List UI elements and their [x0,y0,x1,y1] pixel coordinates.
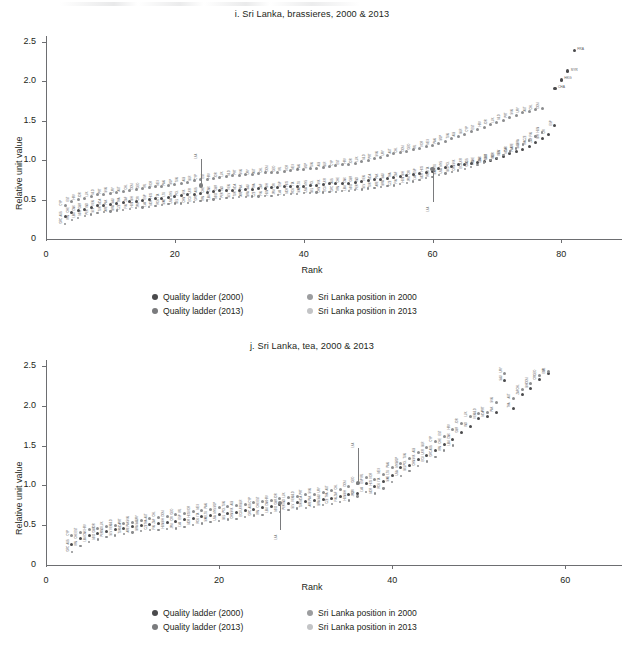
data-point [382,480,385,483]
data-point [512,397,515,400]
data-point [330,489,333,492]
legend-row-2: Quality ladder (2013) Sri Lanka position… [0,620,624,634]
data-point [469,425,472,428]
data-point-label: HUN [345,495,348,501]
data-point [183,518,186,521]
data-point-label: ARE [377,181,380,186]
data-point [283,194,285,196]
data-point [457,135,460,138]
data-point-label: EST [440,431,443,436]
legend-j: Quality ladder (2000) Sri Lanka position… [0,606,624,634]
legend-label: Sri Lanka position in 2000 [318,290,417,304]
data-point-label: LTU [165,192,168,197]
data-point [391,481,393,483]
data-point-label: LVA [145,202,148,207]
data-point [331,503,333,505]
data-point [166,515,169,518]
data-point-label: BLR [423,442,426,447]
y-tick-label: 1.5 [6,440,36,450]
data-point [235,511,238,514]
data-point [341,182,344,185]
data-point [538,378,541,381]
data-point-label: DOM [132,183,135,189]
data-point [412,180,414,182]
data-point [339,495,342,498]
data-point [444,140,447,143]
data-point [365,491,367,493]
data-point-label: NOR [422,172,425,178]
x-tick [46,233,47,239]
sri-lanka-marker-label: LKA [354,443,357,448]
data-point-label: AUS [432,445,435,450]
data-point-label: LUX [285,492,288,497]
data-point-label: NOR [371,487,374,493]
data-point-label: NLD [111,520,114,525]
data-point [457,169,459,171]
data-point-label: AUS [68,539,71,544]
x-axis-line [46,239,622,240]
x-axis-line [46,565,622,566]
data-point-label: HUN [538,127,541,133]
data-point [476,128,479,131]
data-point-label: JPN [409,176,412,181]
data-point-label: IRL [362,473,365,477]
data-point-label: ROU [198,518,201,524]
data-point [193,201,195,203]
y-tick-label: 1.5 [6,115,36,125]
x-axis-label-i: Rank [0,265,624,275]
sri-lanka-marker-2000 [278,501,282,505]
data-point [341,163,344,166]
sri-lanka-connector [280,503,281,530]
data-point-label: LUX [493,117,496,122]
data-point [140,524,143,527]
data-point-label: BLR [190,175,193,180]
data-point-label: CZE [390,180,393,185]
data-point-label: SGP [442,136,445,141]
data-point [412,148,415,151]
data-point [393,184,395,186]
data-point [141,206,143,208]
data-point-label: HRV [85,524,88,529]
data-point [64,215,67,218]
data-point-label: POL [313,180,316,185]
legend-item-quality-ladder-2013: Quality ladder (2013) [152,620,307,634]
data-point-label: MKD [216,193,219,199]
data-point-label: NOR [189,519,192,525]
data-point [270,512,272,514]
data-point-label: TUR [371,182,374,187]
data-point-label: CHE [68,207,71,212]
data-point [270,505,273,508]
data-point-label: NLD [229,171,232,176]
data-point-label: ECU [326,186,329,191]
data-point [219,198,221,200]
figure-page: i. Sri Lanka, brassieres, 2000 & 2013 00… [0,0,624,646]
data-point [515,114,518,117]
data-point-label: ZAF [155,518,158,523]
data-point [244,509,247,512]
data-point-label: SAU [248,184,251,189]
legend-label: Quality ladder (2013) [163,620,243,634]
data-point [400,475,402,477]
data-point-label: ARE [311,501,314,506]
data-point-label: HRV [449,424,452,429]
data-point-label: DOM [268,166,271,172]
data-point [157,522,160,525]
data-point-label: ALB [414,448,417,453]
data-point-label: DOM [163,510,166,516]
data-point [105,530,108,533]
data-point [457,163,460,166]
data-point [183,526,185,528]
data-point [443,435,446,438]
data-point [335,191,337,193]
data-point [566,69,569,72]
x-tick-label: 20 [160,249,190,259]
data-point-label: LBN [267,508,270,513]
data-point [386,185,388,187]
data-point-label: SVN [129,516,132,521]
data-point-label: BEL [313,187,316,192]
data-point-label: DOM [403,145,406,151]
data-point [180,182,183,185]
data-point-label: POL [177,190,180,195]
data-point-label: AUT [146,513,149,518]
data-point [382,473,385,476]
